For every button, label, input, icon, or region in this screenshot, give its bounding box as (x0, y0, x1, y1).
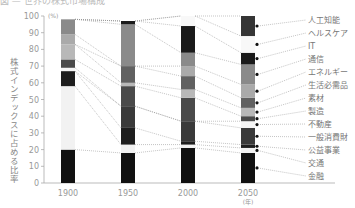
connector-line (195, 53, 241, 65)
bar-segment (61, 86, 75, 149)
bar-segment (241, 148, 255, 153)
bar-segment (181, 26, 195, 53)
bar-segment (61, 59, 75, 67)
bar-segment (181, 76, 195, 89)
connector-line (75, 59, 121, 86)
y-tick-label: 10 (29, 162, 39, 171)
bar-segment (241, 98, 255, 108)
legend-label: 通信 (308, 54, 324, 64)
bar-segment (241, 64, 255, 84)
bar-segment (181, 16, 195, 26)
bar-segment (241, 36, 255, 53)
connector-line (75, 71, 121, 128)
connector-line (135, 128, 181, 141)
connector-line (195, 98, 241, 116)
legend-label: 製造 (308, 106, 324, 116)
bar-segment (241, 84, 255, 97)
legend-leader-line (258, 124, 306, 125)
bar-segment (121, 83, 135, 86)
legend-label: 人工知能 (308, 15, 340, 25)
legend-leader-line (258, 146, 306, 150)
bar-segment (241, 121, 255, 128)
connector-line (195, 76, 241, 98)
connector-line (195, 66, 241, 84)
legend-label: 交通 (308, 158, 324, 168)
bar-segment (121, 86, 135, 106)
y-tick-label: 20 (29, 146, 39, 155)
bar-segment (121, 106, 135, 128)
bar-segment (181, 66, 195, 76)
connector-line (195, 121, 241, 128)
bar-segment (181, 98, 195, 121)
bar-segment (181, 121, 195, 141)
legend-label: 公益事業 (308, 145, 340, 155)
x-tick-label: 1900 (58, 189, 78, 198)
connector-line (135, 86, 181, 98)
bar-segment (61, 68, 75, 71)
connector-line (75, 71, 121, 106)
legend-leader-line (258, 46, 306, 59)
legend-leader-line (258, 72, 306, 91)
x-tick-label: 1950 (118, 189, 138, 198)
x-unit-label: (年) (243, 198, 254, 206)
connector-line (75, 44, 121, 66)
stacked-bar-chart: 0102030405060708090100(%)190019502000205… (0, 0, 355, 208)
legend-leader-line (258, 98, 306, 112)
connector-line (195, 141, 241, 144)
y-unit-label: (%) (48, 12, 58, 19)
y-tick-label: 80 (29, 45, 39, 54)
bar-segment (241, 153, 255, 183)
legend-label: 金融 (308, 171, 324, 181)
y-tick-label: 100 (24, 12, 39, 21)
bar-segment (121, 66, 135, 83)
bar-segment (241, 145, 255, 148)
legend-label: 素材 (308, 93, 324, 103)
bar-segment (241, 16, 255, 36)
bar-segment (181, 89, 195, 97)
connector-line (135, 16, 181, 21)
legend-leader-line (258, 168, 306, 176)
bar-segment (241, 53, 255, 65)
bar-segment (61, 34, 75, 44)
connector-line (75, 86, 121, 144)
legend-label: エネルギー (308, 68, 348, 77)
bar-segment (61, 71, 75, 86)
connector-line (135, 83, 181, 90)
bar-segment (241, 108, 255, 116)
connector-line (75, 150, 121, 153)
legend-leader-line (258, 20, 306, 26)
legend-label: 一般消費財 (308, 132, 348, 142)
bar-segment (121, 128, 135, 145)
bar-segment (121, 21, 135, 24)
y-tick-label: 30 (29, 129, 39, 138)
bar-segment (241, 128, 255, 145)
connector-line (75, 34, 121, 66)
y-tick-label: 60 (29, 79, 39, 88)
connector-line (75, 68, 121, 106)
legend-leader-line (258, 33, 306, 44)
connector-line (135, 24, 181, 52)
legend-leader-line (258, 150, 306, 163)
bar-segment (181, 141, 195, 144)
connector-line (195, 148, 241, 153)
y-tick-label: 0 (34, 179, 39, 188)
connector-line (195, 26, 241, 53)
bar-segment (241, 116, 255, 121)
connector-line (195, 16, 241, 36)
legend-label: ヘルスケア (308, 29, 348, 38)
connector-line (135, 66, 181, 76)
bar-segment (61, 150, 75, 183)
bar-segment (61, 19, 75, 34)
connector-line (135, 148, 181, 153)
legend-label: 不動産 (308, 119, 332, 129)
bar-segment (61, 44, 75, 59)
connector-line (75, 19, 121, 24)
y-tick-label: 70 (29, 62, 39, 71)
y-tick-label: 90 (29, 29, 39, 38)
legend-leader-line (258, 59, 306, 74)
bar-segment (121, 153, 135, 183)
bar-segment (121, 145, 135, 153)
bar-segment (181, 53, 195, 66)
legend-label: IT (308, 42, 315, 51)
legend-leader-line (258, 111, 306, 119)
